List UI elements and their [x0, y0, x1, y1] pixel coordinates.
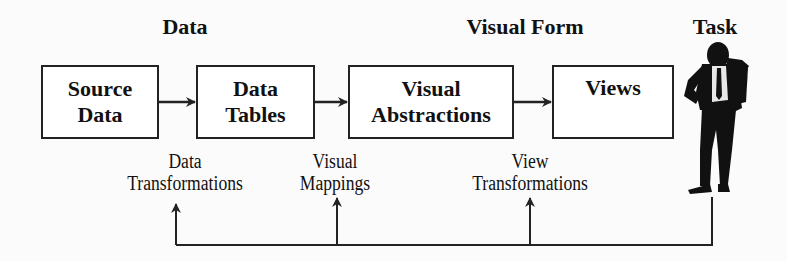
- box-source-data: Source Data: [41, 65, 159, 139]
- box-label-line2: Data: [77, 102, 122, 128]
- box-label-line1: Source: [68, 76, 132, 102]
- box-label-line2: Tables: [225, 102, 285, 128]
- box-visual-abstractions: Visual Abstractions: [348, 65, 514, 139]
- person-tie: [716, 68, 722, 100]
- label-visual-mappings: Visual Mappings: [287, 150, 384, 194]
- header-data: Data: [150, 14, 220, 40]
- box-label-line1: Visual: [401, 76, 460, 102]
- box-views: Views: [552, 65, 674, 139]
- header-visual-form: Visual Form: [450, 14, 600, 40]
- label-view-transformations: View Transformations: [451, 150, 609, 194]
- feedback-line: [176, 197, 712, 245]
- label-data-transformations: Data Transformations: [110, 150, 260, 194]
- box-label-line2: Abstractions: [371, 102, 491, 128]
- box-label-line1: Views: [585, 75, 640, 101]
- box-label-line1: Data: [233, 76, 278, 102]
- header-task: Task: [680, 14, 750, 40]
- box-data-tables: Data Tables: [196, 65, 315, 139]
- person-thinking-icon: [684, 42, 749, 194]
